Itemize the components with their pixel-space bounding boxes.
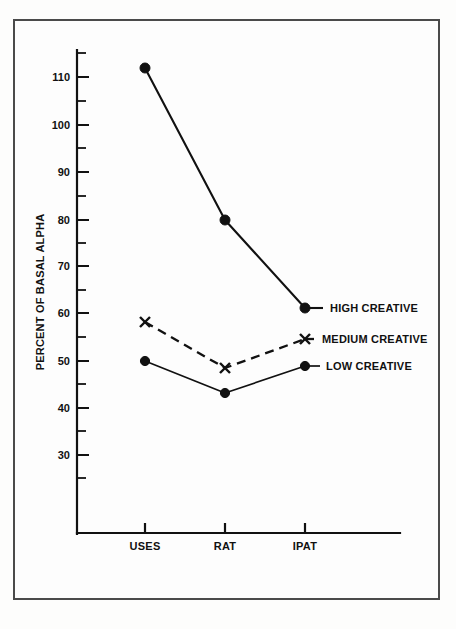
y-axis-title: PERCENT OF BASAL ALPHA	[34, 214, 46, 371]
y-axis-major-ticks	[77, 77, 89, 455]
legend-label-low-creative: LOW CREATIVE	[326, 360, 412, 372]
y-tick-label-80: 80	[58, 214, 70, 226]
legend-label-high-creative: HIGH CREATIVE	[330, 302, 418, 314]
y-tick-label-30: 30	[58, 449, 70, 461]
series-low-creative	[140, 356, 320, 397]
x-tick-label-uses: USES	[129, 540, 160, 552]
data-point-medium-uses	[140, 317, 150, 327]
y-tick-label-60: 60	[58, 307, 70, 319]
series-high-creative	[140, 63, 323, 313]
data-point-low-rat	[220, 388, 229, 397]
legend-label-medium-creative: MEDIUM CREATIVE	[322, 333, 427, 345]
y-tick-label-100: 100	[52, 119, 70, 131]
figure-canvas: 110 100 90 80 70 60 50 40 30 PERCENT OF …	[0, 0, 456, 629]
y-tick-label-90: 90	[58, 166, 70, 178]
y-tick-label-110: 110	[52, 71, 70, 83]
y-tick-label-40: 40	[58, 402, 70, 414]
x-tick-label-ipat: IPAT	[293, 540, 318, 552]
y-tick-label-70: 70	[58, 260, 70, 272]
x-tick-label-rat: RAT	[214, 540, 237, 552]
data-point-high-uses	[140, 63, 150, 73]
line-chart: 110 100 90 80 70 60 50 40 30 PERCENT OF …	[0, 0, 456, 629]
data-point-medium-rat	[220, 363, 230, 373]
data-point-high-rat	[220, 215, 230, 225]
data-point-high-ipat	[300, 303, 310, 313]
data-point-low-uses	[140, 356, 149, 365]
series-medium-creative-line	[145, 322, 305, 368]
x-axis-ticks	[145, 523, 305, 533]
series-high-creative-line	[145, 68, 305, 308]
data-point-low-ipat	[300, 361, 309, 370]
series-medium-creative	[140, 317, 316, 373]
y-tick-label-50: 50	[58, 355, 70, 367]
